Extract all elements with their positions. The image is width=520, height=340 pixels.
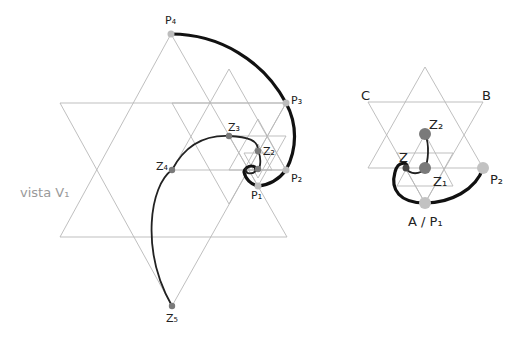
point-z5 [169, 303, 175, 309]
point-right-p2 [477, 162, 489, 174]
label-right-z1: Z₁ [433, 174, 447, 189]
right-figure: C B Z₂ Z Z₁ P₂ A / P₁ [361, 67, 503, 229]
left-figure: P₄ P₃ P₂ P₁ Z₃ Z₂ Z₄ Z₅ vista V₁ [20, 14, 302, 325]
label-p2: P₂ [291, 172, 302, 185]
label-p3: P₃ [291, 94, 302, 107]
point-right-z1 [419, 162, 431, 174]
label-z3: Z₃ [228, 121, 240, 134]
point-right-ap1 [419, 197, 431, 209]
point-z2 [255, 148, 261, 154]
label-z4: Z₄ [156, 160, 169, 173]
point-z4 [169, 167, 175, 173]
point-z1 [255, 166, 261, 172]
label-p1: P₁ [251, 189, 262, 202]
label-p4: P₄ [165, 14, 177, 27]
label-b: B [482, 88, 491, 103]
label-z2: Z₂ [263, 145, 275, 158]
point-p4 [168, 31, 175, 38]
point-right-z [403, 165, 410, 172]
caption-vista-v1: vista V₁ [20, 185, 69, 200]
point-p2 [283, 167, 290, 174]
diagram-canvas: P₄ P₃ P₂ P₁ Z₃ Z₂ Z₄ Z₅ vista V₁ C B Z₂ … [0, 0, 520, 340]
label-right-p2: P₂ [490, 172, 503, 187]
point-p3 [283, 100, 290, 107]
label-right-ap1: A / P₁ [408, 214, 443, 229]
label-c: C [361, 88, 370, 103]
label-right-z: Z [399, 150, 408, 165]
label-right-z2: Z₂ [429, 117, 443, 132]
label-z5: Z₅ [166, 312, 178, 325]
